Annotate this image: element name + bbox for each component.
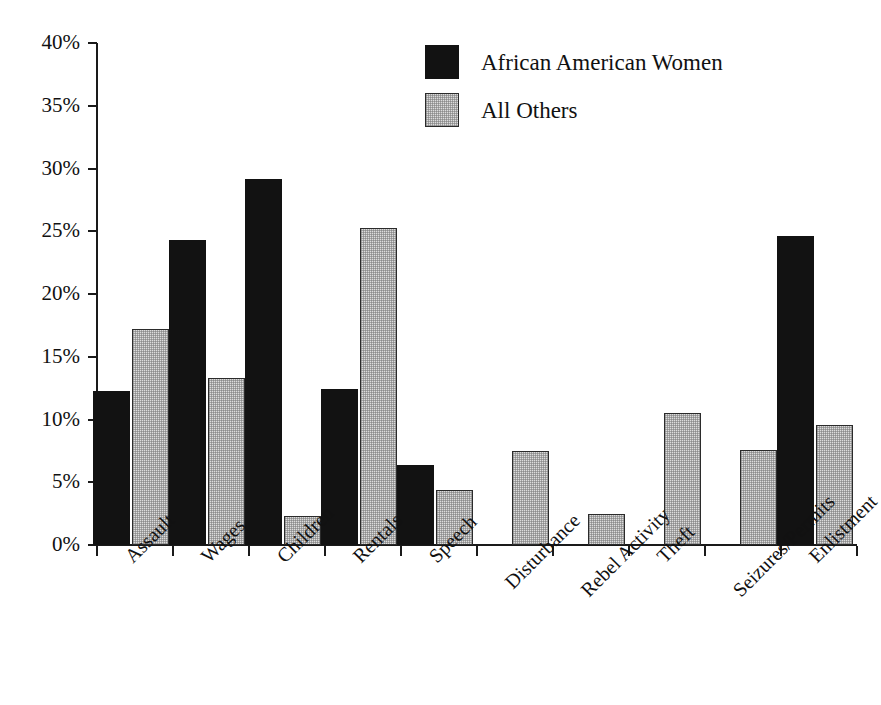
y-axis-tick bbox=[88, 356, 97, 358]
bar bbox=[512, 451, 549, 545]
bar bbox=[360, 228, 397, 546]
y-axis-tick bbox=[88, 293, 97, 295]
y-axis-tick-label: 20% bbox=[28, 283, 80, 304]
bar bbox=[740, 450, 777, 545]
legend-label: African American Women bbox=[481, 51, 723, 74]
x-axis-tick bbox=[324, 546, 326, 556]
y-axis-tick-label: 10% bbox=[28, 409, 80, 430]
bar bbox=[397, 465, 434, 545]
x-axis-tick bbox=[400, 546, 402, 556]
bar bbox=[777, 236, 814, 545]
bar bbox=[245, 179, 282, 545]
legend-swatch-dark-icon bbox=[425, 45, 459, 79]
y-axis-tick bbox=[88, 105, 97, 107]
legend-swatch-light-icon bbox=[425, 93, 459, 127]
x-axis-tick bbox=[856, 546, 858, 556]
legend-label: All Others bbox=[481, 99, 577, 122]
y-axis-tick bbox=[88, 230, 97, 232]
chart-legend: African American Women All Others bbox=[425, 44, 723, 140]
bar bbox=[169, 240, 206, 545]
y-axis-tick-label: 35% bbox=[28, 95, 80, 116]
y-axis-tick-label: 0% bbox=[28, 534, 80, 555]
y-axis-tick-label: 40% bbox=[28, 32, 80, 53]
y-axis-tick bbox=[88, 42, 97, 44]
bar bbox=[93, 391, 130, 545]
x-axis-tick bbox=[96, 546, 98, 556]
y-axis-tick bbox=[88, 168, 97, 170]
y-axis-tick-label: 5% bbox=[28, 471, 80, 492]
x-axis-tick bbox=[172, 546, 174, 556]
x-axis-tick bbox=[704, 546, 706, 556]
legend-item: All Others bbox=[425, 92, 723, 128]
y-axis-tick-label: 25% bbox=[28, 220, 80, 241]
x-axis-tick bbox=[476, 546, 478, 556]
y-axis-tick-label: 30% bbox=[28, 158, 80, 179]
legend-item: African American Women bbox=[425, 44, 723, 80]
x-axis-tick bbox=[248, 546, 250, 556]
y-axis-tick-label: 15% bbox=[28, 346, 80, 367]
